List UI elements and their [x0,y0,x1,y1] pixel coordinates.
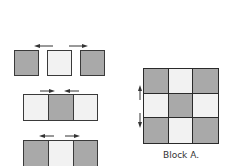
arrow-right-icon [64,133,80,139]
arrow-right-icon [68,43,88,49]
block-cell [193,94,218,119]
strip-cell [73,95,97,120]
strip-cell [73,141,97,166]
arrow-right-icon [39,88,55,94]
strip-cell [48,95,72,120]
block-cell [144,69,169,94]
strip-cell [48,141,72,166]
block-a-grid [143,68,219,144]
square-piece-light [47,50,72,76]
square-piece-dark-2 [80,50,105,76]
square-piece-dark-1 [14,50,39,76]
arrow-left-icon [64,88,80,94]
strip-light-dark-light [23,94,98,121]
block-cell [193,118,218,143]
block-label: Block A. [150,150,212,160]
strip-dark-light-dark [23,140,98,166]
arrow-up-icon [137,85,143,101]
block-cell [144,94,169,119]
block-cell [169,94,194,119]
block-cell [144,118,169,143]
block-cell [169,118,194,143]
block-cell [169,69,194,94]
block-cell [193,69,218,94]
strip-cell [24,95,48,120]
arrow-down-icon [137,112,143,128]
arrow-left-icon [39,133,55,139]
strip-cell [24,141,48,166]
arrow-left-icon [34,43,54,49]
